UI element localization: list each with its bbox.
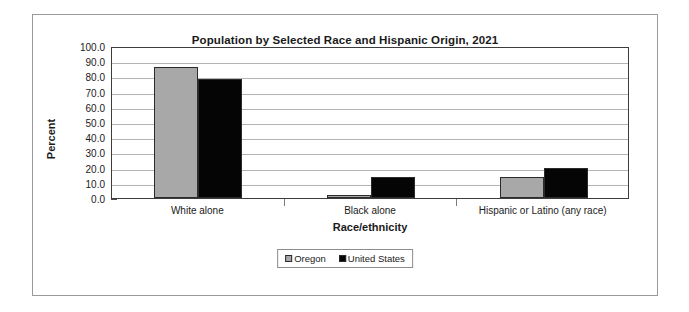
y-tick-label: 80.0: [39, 72, 105, 83]
y-tick-label: 40.0: [39, 133, 105, 144]
legend-label: United States: [348, 253, 405, 264]
bar-oregon: [154, 67, 198, 198]
chart-title: Population by Selected Race and Hispanic…: [33, 34, 657, 46]
x-axis-tick-labels: White aloneBlack aloneHispanic or Latino…: [111, 205, 629, 221]
x-tick-label: Hispanic or Latino (any race): [479, 205, 607, 216]
y-tick-label: 30.0: [39, 148, 105, 159]
y-tick-label: 90.0: [39, 57, 105, 68]
chart-legend: OregonUnited States: [277, 249, 413, 268]
bar-group: [457, 48, 630, 198]
plot-area: [111, 47, 629, 199]
y-tick-label: 100.0: [39, 42, 105, 53]
bar-united-states: [371, 177, 415, 198]
y-tick-label: 60.0: [39, 102, 105, 113]
y-tick-label: 0.0: [39, 194, 105, 205]
y-tick-label: 10.0: [39, 178, 105, 189]
legend-swatch-icon: [285, 255, 292, 262]
bar-oregon: [500, 177, 544, 198]
bars-layer: [112, 48, 628, 198]
bar-group: [112, 48, 285, 198]
legend-label: Oregon: [294, 253, 326, 264]
bar-united-states: [198, 79, 242, 198]
legend-entry-united-states: United States: [339, 253, 405, 264]
legend-entry-oregon: Oregon: [285, 253, 326, 264]
y-tick-label: 20.0: [39, 163, 105, 174]
legend-swatch-icon: [339, 255, 346, 262]
x-axis-title: Race/ethnicity: [111, 221, 629, 233]
bar-oregon: [327, 195, 371, 198]
x-tick-label: Black alone: [344, 205, 396, 216]
x-tick-label: White alone: [171, 205, 224, 216]
y-tick-label: 50.0: [39, 118, 105, 129]
y-axis-tick-labels: 100.090.080.070.060.050.040.030.020.010.…: [39, 47, 105, 199]
bar-united-states: [544, 168, 588, 198]
bar-group: [285, 48, 458, 198]
y-tick-label: 70.0: [39, 87, 105, 98]
figure-frame: Population by Selected Race and Hispanic…: [32, 14, 658, 296]
